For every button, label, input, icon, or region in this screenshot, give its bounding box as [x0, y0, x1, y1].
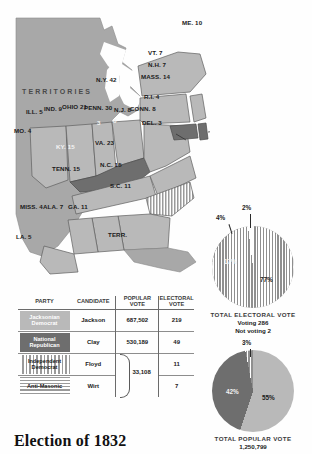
popular-title: TOTAL POPULAR VOTE [196, 435, 310, 443]
popular-pct-national-republican: 42% [226, 388, 239, 395]
electoral-vote-wirt: 7 [159, 375, 194, 397]
electoral-vote-jackson: 219 [159, 309, 194, 331]
header-electoral-vote: ELECTORAL VOTE [159, 296, 194, 309]
table-row: Jacksonian Democrat Jackson 687,502 219 [18, 309, 194, 331]
popular-caption: TOTAL POPULAR VOTE 1,250,799 [196, 435, 310, 451]
map-territories-label: TERRITORIES [22, 88, 92, 95]
candidate-floyd: Floyd [71, 353, 116, 375]
map-state-de [198, 123, 208, 140]
page-title: Election of 1832 [14, 432, 127, 450]
header-party: PARTY [18, 296, 71, 309]
grouped-popular-vote-cell: 33,108 [116, 353, 159, 397]
candidate-jackson: Jackson [71, 309, 116, 331]
map-state-nj [190, 94, 206, 122]
candidate-clay: Clay [71, 331, 116, 353]
map-state-la [40, 246, 78, 274]
party-swatch-anti-masonic: Anti-Masonic [18, 375, 71, 397]
popular-pct-jacksonian: 55% [262, 394, 275, 401]
map-state-mo [30, 126, 68, 188]
electoral-voting: Voting 286 [196, 319, 310, 327]
map-state-ga [118, 214, 170, 250]
map-svg [0, 0, 210, 300]
party-swatch-jacksonian-democrat: Jacksonian Democrat [18, 309, 71, 331]
map-state-in [92, 122, 116, 176]
popular-vote-jackson: 687,502 [116, 309, 159, 331]
electoral-anti-masonic-wedge [212, 226, 294, 308]
popular-other-wedge [212, 350, 294, 432]
table-row: Anti-Masonic Wirt 7 [18, 375, 194, 397]
party-swatch-independent-democrat: Independent Democrat [18, 353, 71, 375]
electoral-not-voting: Not voting 2 [196, 327, 310, 335]
candidate-wirt: Wirt [71, 375, 116, 397]
electoral-pct-anti-masonic: 2% [242, 204, 251, 211]
electoral-pct-national-republican: 17% [224, 258, 237, 265]
popular-vote-clay: 530,189 [116, 331, 159, 353]
map-state-oh [112, 120, 144, 166]
map-state-pa [140, 94, 190, 124]
swatch-label: Anti-Masonic [20, 377, 70, 396]
table-row: National Republican Clay 530,189 49 [18, 331, 194, 353]
chart-total-electoral-vote: 77% 17% 4% 2% TOTAL ELECTORAL VOTE Votin… [196, 226, 310, 334]
map-state-il [66, 124, 96, 182]
leader-line-anti-masonic [250, 214, 251, 228]
header-popular-vote: POPULAR VOTE [116, 296, 159, 309]
map-state-md [170, 124, 198, 140]
electoral-pct-jacksonian: 77% [260, 276, 273, 283]
results-table: PARTY CANDIDATE POPULAR VOTE ELECTORAL V… [18, 296, 194, 416]
map-state-ny [138, 52, 206, 96]
brace-bracket [120, 354, 130, 398]
swatch-label: Jacksonian Democrat [20, 311, 70, 330]
party-swatch-national-republican: National Republican [18, 331, 71, 353]
popular-pct-other: 3% [242, 339, 251, 346]
electoral-caption: TOTAL ELECTORAL VOTE Voting 286 Not voti… [196, 311, 310, 334]
table-row: Independent Democrat Floyd 33,108 11 [18, 353, 194, 375]
popular-pie: 55% 42% [212, 350, 294, 432]
electoral-vote-clay: 49 [159, 331, 194, 353]
popular-total: 1,250,799 [196, 443, 310, 451]
infographic-root: TERRITORIES ME. 10 VT. 7 N.H. 7 MASS. 14… [0, 0, 312, 454]
swatch-label: National Republican [20, 333, 70, 352]
header-candidate: CANDIDATE [71, 296, 116, 309]
electoral-pie: 77% 17% [212, 226, 294, 308]
electoral-title: TOTAL ELECTORAL VOTE [196, 311, 310, 319]
grouped-popular-vote: 33,108 [132, 369, 150, 375]
election-map: TERRITORIES ME. 10 VT. 7 N.H. 7 MASS. 14… [0, 0, 210, 300]
electoral-pct-independent-democrat: 4% [216, 214, 225, 221]
leader-line-popular-other [250, 349, 251, 357]
chart-total-popular-vote: 55% 42% 3% TOTAL POPULAR VOTE 1,250,799 [196, 350, 310, 451]
electoral-vote-floyd: 11 [159, 353, 194, 375]
map-region-florida-territory [124, 248, 196, 272]
swatch-label: Independent Democrat [20, 355, 70, 374]
